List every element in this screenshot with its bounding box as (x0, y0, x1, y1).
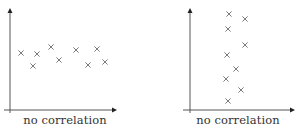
right-scatter-chart (183, 8, 295, 113)
x-marker-icon (226, 11, 231, 16)
x-marker-icon (224, 52, 229, 57)
left-chart-caption: no correlation (23, 113, 107, 127)
x-marker-icon (34, 51, 39, 56)
x-marker-icon (48, 44, 53, 49)
left-y-axis-arrow-icon (8, 8, 13, 13)
x-marker-icon (30, 63, 35, 68)
x-marker-icon (242, 16, 247, 21)
left-x-axis-arrow-icon (112, 108, 117, 113)
right-y-axis-arrow-icon (188, 8, 193, 13)
x-marker-icon (85, 62, 90, 67)
right-x-axis-arrow-icon (290, 108, 295, 113)
x-marker-icon (56, 57, 61, 62)
right-chart-caption: no correlation (196, 113, 280, 127)
left-scatter-chart (4, 8, 117, 113)
scatter-diagrams (0, 0, 300, 130)
x-marker-icon (223, 76, 228, 81)
x-marker-icon (94, 46, 99, 51)
x-marker-icon (225, 98, 230, 103)
x-marker-icon (242, 42, 247, 47)
x-marker-icon (233, 66, 238, 71)
x-marker-icon (102, 59, 107, 64)
x-marker-icon (73, 47, 78, 52)
x-marker-icon (18, 50, 23, 55)
diagram-stage: no correlation no correlation (0, 0, 300, 130)
x-marker-icon (225, 26, 230, 31)
x-marker-icon (238, 87, 243, 92)
